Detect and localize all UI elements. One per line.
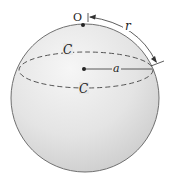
arrowhead-end bbox=[151, 56, 157, 63]
pole-label: O bbox=[73, 11, 82, 24]
radius-a-label: a bbox=[113, 62, 120, 75]
arrowhead-start bbox=[89, 15, 96, 20]
sphere bbox=[11, 24, 159, 172]
end-tick bbox=[151, 61, 164, 66]
circle-c-bottom-label: C bbox=[79, 82, 88, 96]
sphere-diagram: O r a C C bbox=[0, 0, 169, 180]
circle-c-top-label: C bbox=[63, 43, 72, 57]
